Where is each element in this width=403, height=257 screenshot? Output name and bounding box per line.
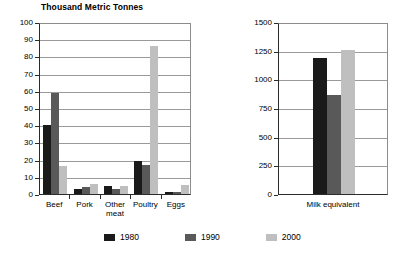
y-axis-tick-mark	[274, 80, 278, 81]
bar-group	[101, 186, 131, 194]
y-axis-tick-mark	[35, 92, 39, 93]
gridline	[40, 75, 190, 76]
bar-1980	[134, 161, 142, 194]
x-axis-category-label: Milk equivalent	[272, 200, 394, 209]
y-axis-tick-mark	[274, 138, 278, 139]
legend-swatch-2000	[266, 234, 277, 241]
y-axis-tick-mark	[35, 161, 39, 162]
y-axis-tick-label: 750	[245, 105, 272, 113]
y-axis-tick-mark	[274, 109, 278, 110]
gridline	[40, 23, 190, 24]
bar-1980	[43, 125, 51, 194]
legend-label-1980: 1980	[120, 232, 139, 242]
y-axis-tick-label: 40	[6, 122, 33, 130]
bar-1990	[327, 95, 341, 194]
y-axis-tick-label: 30	[6, 139, 33, 147]
y-axis-tick-label: 50	[6, 105, 33, 113]
y-axis-tick-mark	[35, 23, 39, 24]
bar-1990	[51, 93, 59, 194]
x-axis-label-line: Eggs	[155, 200, 197, 209]
legend-item-1980: 1980	[104, 232, 139, 242]
y-axis-tick-mark	[274, 166, 278, 167]
bar-group	[162, 185, 191, 194]
left-chart-title: Thousand Metric Tonnes	[41, 2, 143, 12]
chart-legend: 1980 1990 2000	[104, 232, 301, 242]
bar-1990	[173, 192, 181, 194]
left-plot-area	[39, 23, 191, 195]
bar-group	[70, 184, 100, 194]
y-axis-tick-label: 0	[245, 191, 272, 199]
legend-label-2000: 2000	[282, 232, 301, 242]
x-axis-label-line: meat	[94, 209, 136, 218]
bar-1990	[82, 187, 90, 194]
legend-item-2000: 2000	[266, 232, 301, 242]
chart-page: Thousand Metric Tonnes 01020304050607080…	[0, 0, 403, 257]
x-axis-tick-mark	[69, 195, 70, 199]
y-axis-tick-label: 100	[6, 19, 33, 27]
y-axis-tick-label: 20	[6, 157, 33, 165]
y-axis-tick-label: 90	[6, 36, 33, 44]
y-axis-tick-mark	[35, 109, 39, 110]
y-axis-tick-label: 500	[245, 134, 272, 142]
y-axis-tick-label: 60	[6, 88, 33, 96]
bar-1990	[112, 189, 120, 194]
bar-2000	[150, 46, 158, 194]
gridline	[40, 57, 190, 58]
bar-1980	[165, 192, 173, 194]
bar-2000	[181, 185, 189, 194]
legend-swatch-1990	[185, 234, 196, 241]
bar-1990	[142, 165, 150, 194]
y-axis-tick-label: 80	[6, 53, 33, 61]
y-axis-tick-mark	[35, 40, 39, 41]
bar-group	[279, 50, 388, 194]
y-axis-tick-mark	[35, 75, 39, 76]
x-axis-category-label: Eggs	[155, 200, 197, 209]
y-axis-tick-label: 70	[6, 71, 33, 79]
bar-2000	[59, 166, 67, 194]
bar-1980	[104, 186, 112, 194]
legend-item-1990: 1990	[185, 232, 220, 242]
bar-1980	[313, 58, 327, 194]
y-axis-tick-label: 1500	[245, 19, 272, 27]
x-axis-tick-mark	[130, 195, 131, 199]
y-axis-tick-mark	[35, 178, 39, 179]
bar-2000	[90, 184, 98, 194]
y-axis-tick-label: 1250	[245, 48, 272, 56]
bar-1980	[74, 189, 82, 194]
y-axis-tick-label: 10	[6, 174, 33, 182]
y-axis-tick-mark	[274, 23, 278, 24]
bar-2000	[120, 186, 128, 194]
y-axis-tick-mark	[35, 143, 39, 144]
gridline	[279, 23, 387, 24]
y-axis-tick-mark	[35, 126, 39, 127]
bar-group	[40, 93, 70, 194]
y-axis-tick-label: 250	[245, 162, 272, 170]
bar-group	[131, 46, 161, 194]
y-axis-tick-label: 1000	[245, 76, 272, 84]
y-axis-tick-mark	[35, 195, 39, 196]
x-axis-tick-mark	[161, 195, 162, 199]
x-axis-label-line: Milk equivalent	[272, 200, 394, 209]
legend-swatch-1980	[104, 234, 115, 241]
y-axis-tick-mark	[274, 52, 278, 53]
right-plot-area	[278, 23, 388, 195]
legend-label-1990: 1990	[201, 232, 220, 242]
bar-2000	[341, 50, 355, 194]
y-axis-tick-label: 0	[6, 191, 33, 199]
x-axis-tick-mark	[100, 195, 101, 199]
gridline	[40, 40, 190, 41]
y-axis-tick-mark	[274, 195, 278, 196]
y-axis-tick-mark	[35, 57, 39, 58]
